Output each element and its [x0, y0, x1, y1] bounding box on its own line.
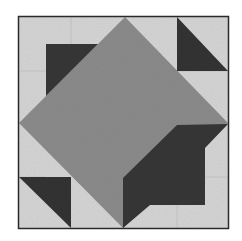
quilt-block	[19, 17, 228, 228]
quilt-block-image	[0, 0, 242, 241]
